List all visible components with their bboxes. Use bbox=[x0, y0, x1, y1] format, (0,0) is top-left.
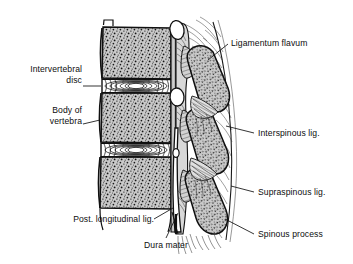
nucleus-pulposus bbox=[128, 83, 144, 88]
spinal-canal-opening-lower bbox=[173, 149, 179, 158]
label-post-longitudinal-lig: Post. longitudinal lig. bbox=[48, 214, 154, 225]
intervertebral-disc-2 bbox=[101, 143, 171, 157]
label-supraspinous-lig: Supraspinous lig. bbox=[258, 187, 353, 198]
label-body-of-vertebra: Body of vertebra bbox=[8, 105, 82, 126]
label-interspinous-lig: Interspinous lig. bbox=[258, 128, 353, 139]
vertebral-body-2 bbox=[100, 93, 172, 143]
label-intervertebral-disc: Intervertebral disc bbox=[8, 64, 82, 85]
nucleus-pulposus bbox=[128, 147, 144, 152]
label-dura-mater: Dura mater bbox=[128, 240, 204, 251]
vertebral-body-1 bbox=[101, 20, 172, 79]
intervertebral-disc-1 bbox=[102, 79, 171, 93]
label-spinous-process: Spinous process bbox=[258, 229, 353, 240]
label-ligamentum-flavum: Ligamentum flavum bbox=[231, 38, 349, 49]
